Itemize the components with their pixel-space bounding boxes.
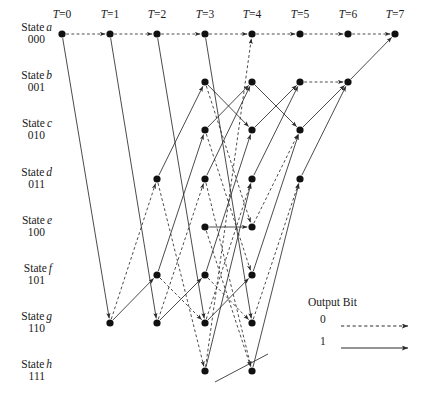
state-label-h: Stateh111 [0, 359, 52, 382]
trellis-node-t1-state-g[interactable] [106, 319, 113, 326]
trellis-edge-t1-0-to-6 [111, 38, 157, 318]
trellis-edge-t1-6-to-5 [113, 278, 154, 320]
trellis-node-t3-state-e[interactable] [201, 223, 208, 230]
time-label-0: T=0 [53, 8, 72, 20]
trellis-edge-t5-2-to-1 [303, 85, 345, 127]
legend-key-0: 0 [320, 313, 326, 325]
trellis-node-t2-state-g[interactable] [153, 319, 160, 326]
trellis-node-t2-state-d[interactable] [153, 175, 160, 182]
trellis-node-t5-state-d[interactable] [296, 175, 303, 182]
legend-dashed-arrow-icon [340, 321, 418, 331]
time-label-1: T=1 [101, 8, 120, 20]
trellis-edge-t3-3-to-1 [207, 86, 250, 175]
state-label-b: Stateb001 [0, 70, 52, 93]
state-label-g: Stateg110 [0, 311, 52, 334]
trellis-stray-edge-0 [215, 354, 268, 382]
trellis-node-t6-state-a[interactable] [344, 30, 351, 37]
state-label-d: Stated011 [0, 167, 52, 190]
trellis-edge-t4-4-to-2 [254, 134, 298, 223]
trellis-node-t5-state-c[interactable] [296, 126, 303, 133]
trellis-edge-t6-1-to-0 [351, 37, 392, 79]
trellis-diagram: T=0T=1T=2T=3T=4T=5T=6T=7 Statea000Stateb… [0, 0, 426, 398]
trellis-node-t3-state-g[interactable] [201, 319, 208, 326]
trellis-node-t4-state-e[interactable] [248, 223, 255, 230]
trellis-node-t6-state-b[interactable] [344, 78, 351, 85]
trellis-edge-t4-7-to-3 [253, 184, 299, 367]
time-label-3: T=3 [196, 8, 215, 20]
state-label-a: Statea000 [0, 22, 52, 45]
trellis-edge-t4-3-to-1 [254, 86, 298, 175]
trellis-edge-t5-3-to-1 [302, 86, 346, 175]
trellis-node-t3-state-c[interactable] [201, 126, 208, 133]
legend-key-1: 1 [320, 335, 326, 347]
time-label-5: T=5 [291, 8, 310, 20]
trellis-edge-t2-6-to-5 [160, 278, 202, 320]
trellis-node-t5-state-a[interactable] [296, 30, 303, 37]
legend-row-output-0: 0 [300, 315, 420, 329]
trellis-node-t4-state-g[interactable] [248, 319, 255, 326]
trellis-edge-t0-0-to-6 [63, 38, 110, 318]
trellis-node-t4-state-c[interactable] [248, 126, 255, 133]
trellis-node-t5-state-b[interactable] [296, 78, 303, 85]
trellis-node-t4-state-h[interactable] [248, 367, 255, 374]
legend-row-output-1: 1 [300, 337, 420, 351]
trellis-edge-t2-3-to-1 [159, 86, 203, 175]
trellis-node-t4-state-f[interactable] [248, 271, 255, 278]
trellis-node-t3-state-d[interactable] [201, 175, 208, 182]
legend-solid-arrow-icon [340, 343, 418, 353]
trellis-node-t0-state-a[interactable] [58, 30, 65, 37]
state-label-f: Statef101 [0, 263, 52, 286]
trellis-edge-t2-5-to-2 [158, 135, 203, 271]
time-label-2: T=2 [148, 8, 167, 20]
legend-title: Output Bit [308, 296, 357, 308]
trellis-node-t4-state-a[interactable] [248, 30, 255, 37]
trellis-node-t1-state-a[interactable] [106, 30, 113, 37]
trellis-node-t2-state-a[interactable] [153, 30, 160, 37]
trellis-node-t3-state-b[interactable] [201, 78, 208, 85]
trellis-node-t3-state-f[interactable] [201, 271, 208, 278]
time-label-6: T=6 [339, 8, 358, 20]
trellis-edge-t3-6-to-5 [208, 278, 249, 320]
trellis-node-t7-state-a[interactable] [391, 30, 398, 37]
state-label-e: Statee100 [0, 215, 52, 238]
trellis-node-t4-state-b[interactable] [248, 78, 255, 85]
state-label-c: Statec010 [0, 118, 52, 141]
trellis-node-t2-state-f[interactable] [153, 271, 160, 278]
time-label-7: T=7 [386, 8, 405, 20]
trellis-node-t3-state-a[interactable] [201, 30, 208, 37]
trellis-node-t4-state-d[interactable] [248, 175, 255, 182]
trellis-edge-t4-5-to-2 [253, 135, 298, 271]
time-label-4: T=4 [243, 8, 262, 20]
trellis-node-t3-state-h[interactable] [201, 367, 208, 374]
